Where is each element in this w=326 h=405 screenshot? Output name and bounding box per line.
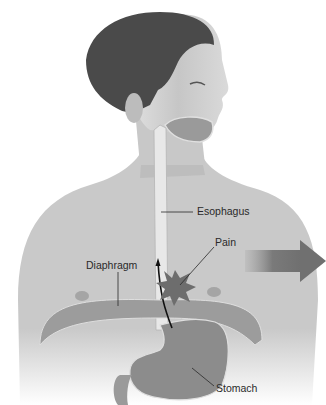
pain-label: Pain: [215, 237, 236, 248]
figure-svg: [0, 0, 326, 405]
ear: [125, 93, 143, 123]
diaphragm-label: Diaphragm: [86, 260, 137, 271]
right-nipple: [207, 287, 221, 297]
anatomy-illustration: Esophagus Pain Diaphragm Stomach: [0, 0, 326, 405]
esophagus-label: Esophagus: [197, 206, 250, 217]
left-nipple: [75, 291, 89, 301]
stomach-label: Stomach: [216, 383, 257, 394]
